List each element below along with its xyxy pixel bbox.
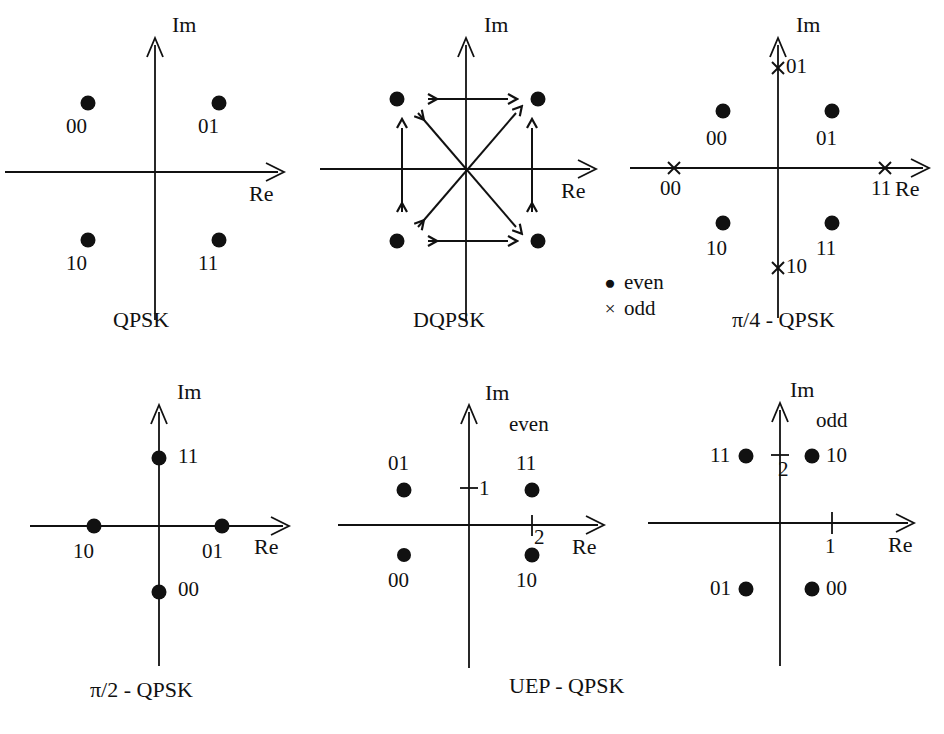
panel-caption-uep: UEP - QPSK	[509, 673, 624, 699]
real-axis-label: Re	[561, 180, 585, 202]
constellation-point	[739, 582, 754, 597]
imag-axis-label: Im	[177, 381, 201, 403]
filled-circle-icon: ●	[600, 272, 620, 294]
panel-pi2-qpsk: Im Re 11 00 10 01 π/2 - QPSK	[0, 360, 310, 734]
panel-qpsk: Im Re 00 01 10 11 QPSK	[0, 0, 310, 340]
panel-caption-pi4: π/4 - QPSK	[732, 307, 835, 333]
panel-caption-qpsk: QPSK	[113, 307, 169, 333]
point-label-00: 00	[178, 579, 199, 600]
point-label-01: 01	[202, 541, 223, 562]
panel-dqpsk: Im Re DQPSK	[310, 0, 620, 340]
imag-axis-label: Im	[790, 379, 814, 401]
cross-icon: ×	[600, 298, 620, 320]
constellation-point	[212, 233, 227, 248]
constellation-point-even	[825, 104, 840, 119]
point-label-00: 00	[826, 578, 847, 599]
point-label-10: 10	[66, 253, 87, 274]
even-point-label-00: 00	[706, 128, 727, 149]
point-label-10: 10	[826, 445, 847, 466]
point-label-00: 00	[66, 116, 87, 137]
point-label-11: 11	[178, 446, 198, 467]
imag-tick-label-1: 1	[479, 478, 490, 499]
real-axis-label: Re	[572, 536, 596, 558]
constellation-point-even	[825, 216, 840, 231]
imag-axis-label: Im	[484, 14, 508, 36]
imag-axis-label: Im	[172, 14, 196, 36]
point-label-10: 10	[73, 541, 94, 562]
even-point-label-10: 10	[706, 238, 727, 259]
constellation-point	[531, 92, 546, 107]
odd-point-label-01-top: 01	[786, 56, 807, 77]
pi4-qpsk-axes	[620, 0, 944, 340]
constellation-point	[390, 92, 405, 107]
qpsk-axes	[0, 0, 310, 340]
constellation-point	[81, 233, 96, 248]
constellation-point-even	[716, 104, 731, 119]
constellation-point	[215, 519, 230, 534]
point-label-11: 11	[198, 253, 218, 274]
constellation-point	[390, 234, 405, 249]
constellation-point	[87, 519, 102, 534]
point-label-01: 01	[198, 116, 219, 137]
real-axis-label: Re	[895, 178, 919, 200]
constellation-point	[805, 449, 820, 464]
parity-tag-even: even	[509, 414, 549, 435]
constellation-point	[739, 449, 754, 464]
point-label-10: 10	[516, 570, 537, 591]
constellation-point	[212, 96, 227, 111]
imag-tick-label-2: 2	[778, 459, 789, 480]
odd-point-label-11-right: 11	[871, 178, 891, 199]
figure-canvas: Im Re 00 01 10 11 QPSK	[0, 0, 944, 734]
constellation-point	[397, 548, 411, 562]
constellation-point	[152, 585, 167, 600]
point-label-11: 11	[516, 453, 536, 474]
even-point-label-01: 01	[816, 128, 837, 149]
panel-uep-qpsk-odd: Im Re odd 2 1 11 10 01 00	[620, 360, 944, 734]
constellation-point	[805, 582, 820, 597]
constellation-point	[531, 234, 546, 249]
imag-axis-label: Im	[485, 382, 509, 404]
constellation-point	[525, 548, 540, 563]
point-label-11: 11	[710, 445, 730, 466]
point-label-01: 01	[388, 453, 409, 474]
real-tick-label-2: 2	[534, 527, 545, 548]
panel-pi4-qpsk: Im Re 01 10 00 11 00 01 10 11 π/4 - QPSK	[620, 0, 944, 340]
real-axis-label: Re	[254, 536, 278, 558]
real-axis-label: Re	[888, 534, 912, 556]
panel-caption-pi2: π/2 - QPSK	[90, 677, 193, 703]
panel-uep-qpsk-even: Im Re even 1 2 01 11 00 10 UEP - QPSK	[320, 360, 640, 734]
parity-tag-odd: odd	[816, 410, 848, 431]
constellation-point-even	[716, 216, 731, 231]
point-label-00: 00	[388, 570, 409, 591]
constellation-point	[397, 483, 412, 498]
point-label-01: 01	[710, 578, 731, 599]
real-tick-label-1: 1	[825, 536, 836, 557]
constellation-point	[525, 483, 540, 498]
real-axis-label: Re	[249, 183, 273, 205]
constellation-point	[81, 96, 96, 111]
even-point-label-11: 11	[816, 238, 836, 259]
dqpsk-axes	[310, 0, 620, 340]
constellation-point	[152, 451, 167, 466]
odd-point-label-10-bottom: 10	[786, 256, 807, 277]
odd-point-label-00-left: 00	[660, 178, 681, 199]
imag-axis-label: Im	[796, 14, 820, 36]
panel-caption-dqpsk: DQPSK	[413, 307, 485, 333]
